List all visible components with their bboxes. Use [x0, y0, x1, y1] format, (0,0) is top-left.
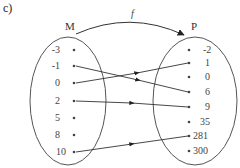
- codomain-elements: -2 1 0 6 9 35 281 300: [188, 44, 212, 156]
- domain-point: [73, 134, 76, 137]
- function-label: f: [131, 8, 135, 19]
- domain-point: [73, 49, 76, 52]
- mapping-arrows: [76, 63, 188, 152]
- codomain-point: [188, 150, 191, 153]
- domain-point: [73, 151, 76, 154]
- codomain-element: 6: [205, 86, 210, 97]
- domain-element: 0: [55, 77, 60, 88]
- codomain-point: [188, 91, 191, 94]
- domain-point: [73, 82, 76, 85]
- domain-point: [73, 65, 76, 68]
- codomain-point: [188, 135, 191, 138]
- domain-element: 10: [56, 146, 66, 157]
- codomain-element: 35: [200, 116, 210, 127]
- domain-ellipse: [30, 37, 106, 165]
- codomain-point: [188, 49, 191, 52]
- codomain-point: [188, 62, 191, 65]
- part-label: c): [3, 1, 12, 15]
- domain-point: [73, 117, 76, 120]
- codomain-element: 300: [193, 145, 208, 156]
- codomain-element: 281: [193, 130, 208, 141]
- function-arrow: [76, 22, 184, 35]
- function-diagram: c) f M P -3 -1 0 2 5 8 10 -2 1 0 6 9 35: [0, 0, 240, 168]
- set-name-domain: M: [65, 20, 75, 32]
- domain-element: 2: [55, 95, 60, 106]
- mapping-arrow-10-to-281: [76, 136, 188, 152]
- mapping-arrow-0-to-1: [76, 63, 188, 83]
- codomain-element: 1: [205, 57, 210, 68]
- domain-element: 5: [55, 112, 60, 123]
- codomain-point: [188, 121, 191, 124]
- codomain-element: -2: [203, 44, 211, 55]
- codomain-point: [188, 76, 191, 79]
- codomain-element: 0: [205, 71, 210, 82]
- set-name-codomain: P: [191, 20, 197, 32]
- codomain-element: 9: [205, 101, 210, 112]
- domain-point: [73, 100, 76, 103]
- mapping-arrow-2-to-9: [76, 101, 188, 107]
- domain-element: 8: [55, 129, 60, 140]
- codomain-point: [188, 106, 191, 109]
- domain-elements: -3 -1 0 2 5 8 10: [52, 44, 76, 157]
- domain-element: -1: [52, 60, 60, 71]
- domain-element: -3: [52, 44, 60, 55]
- mapping-arrow-neg1-to-6: [76, 66, 188, 92]
